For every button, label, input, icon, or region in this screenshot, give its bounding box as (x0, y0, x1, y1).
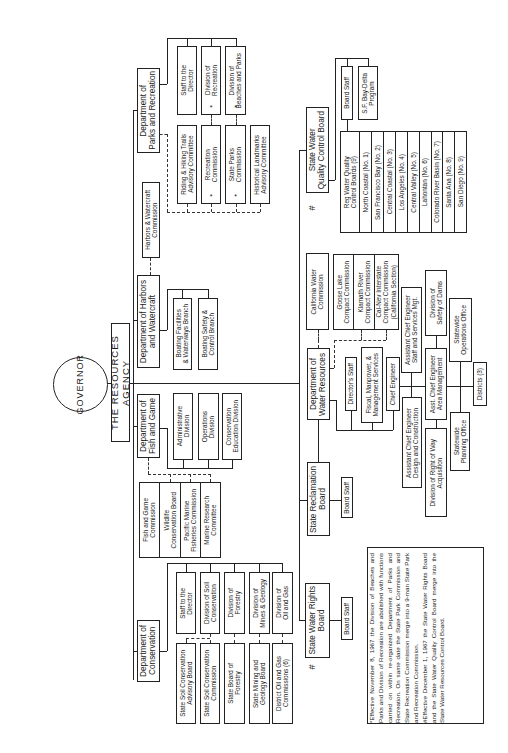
fishgame-conservation-education: Conservation Education Division (222, 393, 242, 460)
unit-label: Central Valley (No. 5) (410, 152, 417, 213)
connector (232, 460, 233, 468)
dashed-connector (210, 634, 211, 643)
dashed-connector (234, 634, 235, 643)
qcb-board-staff: Board Staff (341, 66, 353, 120)
unit-label: Board Staff (343, 482, 350, 514)
unit-label: Asst. Chief Engineer Area Management (429, 355, 444, 413)
dept-label: State Water Quality Control Board (308, 111, 326, 189)
dept-label: Department of Conservation (139, 625, 157, 677)
unit-label: North Coastal (No. 1) (362, 152, 369, 212)
dashed-connector (282, 634, 283, 643)
unit-label: Board Staff (343, 77, 350, 109)
wr-statewide-planning: Statewide Planning Office (450, 412, 470, 471)
connector (336, 430, 393, 431)
harbors-watercraft-commission: Harbors & Watercraft Commission (142, 182, 160, 258)
unit-label: Goose Lake Compact Commission (336, 261, 351, 324)
governor-node: GOVERNOR (53, 357, 108, 412)
connector (167, 289, 209, 290)
dashed-connector (260, 204, 261, 212)
unit-label: Board Staff (343, 603, 350, 635)
unit-label: Boating Safety & Control Branch (201, 310, 216, 358)
dashed-connector (386, 330, 387, 340)
compact-commissions: Goose Lake Compact Commission Klamath Ri… (333, 254, 399, 330)
cons-staff-director: Staff to the Director (176, 572, 196, 634)
wr-directors-staff: Director's Staff (345, 357, 357, 411)
asterisk-marker: * (234, 193, 237, 200)
connector (411, 373, 412, 397)
connector (259, 563, 260, 572)
unit-label: S.F. Bay-Delta Program (361, 73, 376, 114)
unit-label: Fiscal, Manpower, & Management Services (365, 353, 380, 417)
connector (372, 423, 373, 430)
connector (211, 38, 212, 46)
unit-label: Santa Ana (No. 8) (445, 157, 452, 208)
dept-fish-game: Department of Fish and Game (137, 394, 160, 458)
cons-mining-geology-board: State Mining and Geology Board (249, 643, 270, 724)
dashed-connector (160, 134, 167, 135)
unit-label: District Oil and Gas Commissions (6) (275, 656, 290, 711)
unit-label: Boating Facilities & Waterways Branch (175, 304, 190, 363)
wr-right-of-way: Division of Right of Way Acquisition (425, 428, 447, 517)
unit-label: Administrative Division (176, 406, 191, 446)
dashed-connector (318, 340, 319, 348)
wr-ace-area-management: Asst. Chief Engineer Area Management (425, 348, 447, 420)
connector (236, 38, 237, 46)
parks-division-recreation: Division of Recreation* (201, 46, 221, 115)
connector (330, 620, 341, 621)
regional-board: Santa Ana (No. 8) (443, 132, 455, 232)
unit-label: California Water Commission (310, 269, 325, 315)
harbors-boating-safety: Boating Safety & Control Branch (198, 298, 218, 370)
connector (208, 289, 209, 298)
connector (208, 460, 209, 468)
connector (160, 330, 167, 331)
dashed-connector (361, 330, 362, 340)
hash-marker: # (307, 205, 317, 210)
governor-label: GOVERNOR (75, 354, 85, 415)
goose-lake-compact: Goose Lake Compact Commission (334, 255, 354, 329)
connector (335, 58, 336, 180)
connector (160, 428, 167, 429)
dashed-connector (210, 474, 211, 482)
dept-label: State Reclamation Board (309, 466, 327, 533)
unit-label: Division of Forestry (227, 588, 242, 617)
wildlife-conservation-board: Wildlife Conservation Board (160, 483, 180, 557)
connector (299, 150, 306, 151)
dept-label: Department of Water Resources (309, 353, 327, 416)
connector (160, 651, 167, 652)
unit-label: Conservation Education Division (225, 400, 240, 453)
reclamation-board-staff: Board Staff (341, 477, 353, 518)
unit-label: Cal-Nev Interstate Compact Commission (C… (375, 261, 397, 324)
connector (329, 180, 335, 181)
dashed-connector (148, 458, 149, 474)
connector (460, 362, 461, 412)
dept-harbors-watercraft: Department of Harbors and Watercraft (137, 275, 160, 368)
unit-label: Wildlife Conservation Board (163, 492, 178, 548)
dashed-connector (167, 134, 168, 212)
dashed-connector (211, 115, 212, 125)
connector (167, 289, 168, 330)
unit-label: Marine Research Committee (203, 496, 218, 545)
unit-label: San Diego (No. 9) (457, 156, 464, 207)
regional-board: San Diego (No. 9) (455, 132, 466, 232)
unit-label: Riding & Hiking Trails Advisory Committe… (180, 134, 195, 195)
regional-boards-header: Reg Water Quality Control Boards (9) (341, 132, 360, 232)
regional-board: Central Coastal (No. 3) (384, 132, 396, 232)
cons-soil-division: Division of Soil Conservation (200, 572, 220, 634)
connector (167, 563, 168, 651)
unit-label: Operations Division (201, 411, 216, 442)
asterisk-marker: * (210, 104, 213, 111)
wr-ace-design-construction: Assistant Chief Engineer Design and Cons… (402, 397, 422, 488)
qcb-sf-bay-delta: S.F. Bay-Delta Program (358, 66, 378, 120)
connector (133, 110, 134, 680)
connector (186, 563, 187, 572)
connector (299, 150, 300, 620)
dashed-connector (334, 340, 386, 341)
dept-label: Department of Harbors and Watercraft (139, 280, 157, 363)
connector (187, 38, 188, 46)
connector (336, 400, 337, 430)
connector (167, 38, 168, 84)
dept-parks-recreation: Department of Parks and Recreation (137, 68, 160, 153)
connector (299, 500, 307, 501)
unit-label: Division of Oil and Gas (275, 586, 290, 620)
resources-agency-box: THE RESOURCES AGENCY (111, 323, 130, 442)
